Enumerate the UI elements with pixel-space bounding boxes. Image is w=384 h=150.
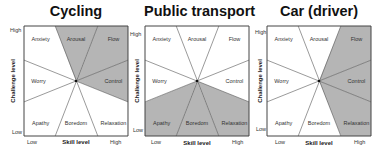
x-axis-title: Skill level xyxy=(305,140,332,146)
segment-label-arousal: Arousal xyxy=(310,36,329,42)
segment-label-relaxation: Relaxation xyxy=(343,120,369,126)
y-tick-low: Low xyxy=(256,126,266,132)
chart-car-driver: Car (driver) AnxietyArousalFlowWorryCont… xyxy=(0,0,384,150)
x-tick-low: Low xyxy=(275,139,285,145)
segment-label-worry: Worry xyxy=(274,78,289,84)
segment-label-boredom: Boredom xyxy=(308,120,330,126)
y-axis-title: Challenge level xyxy=(257,59,263,103)
flow-diagram-box: AnxietyArousalFlowWorryControlApathyBore… xyxy=(267,26,371,136)
chart-title: Car (driver) xyxy=(266,3,372,19)
segment-label-anxiety: Anxiety xyxy=(275,36,293,42)
x-tick-high: High xyxy=(354,139,365,145)
segment-label-flow: Flow xyxy=(351,36,363,42)
y-tick-high: High xyxy=(255,29,266,35)
segment-label-apathy: Apathy xyxy=(275,120,292,126)
center-point xyxy=(318,80,320,82)
segment-label-control: Control xyxy=(348,78,366,84)
